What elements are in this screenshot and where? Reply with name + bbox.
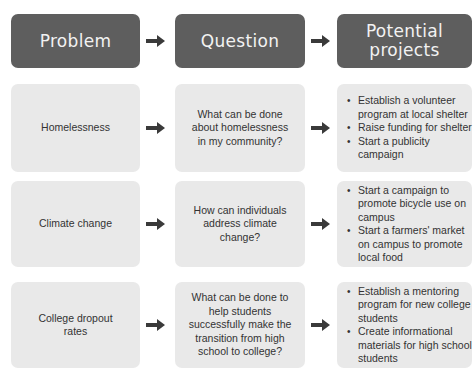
right-arrow-icon <box>146 121 166 135</box>
right-arrow-icon <box>146 217 166 231</box>
project-item: Raise funding for shelter <box>345 121 472 135</box>
project-item: Start a publicity campaign <box>345 135 472 162</box>
project-item: Establish a volunteer program at local s… <box>345 94 472 121</box>
question-text: How can individuals address climate chan… <box>189 204 291 245</box>
right-arrow-icon <box>311 34 331 48</box>
right-arrow-icon <box>146 34 166 48</box>
header-problem-label: Problem <box>40 32 112 51</box>
project-item: Start a campaign to promote bicycle use … <box>345 184 472 225</box>
problem-text: College dropout rates <box>31 312 120 339</box>
projects-list: Establish a volunteer program at local s… <box>345 94 472 162</box>
projects-cell: Establish a volunteer program at local s… <box>337 84 472 172</box>
right-arrow-icon <box>311 318 331 332</box>
question-cell: What can be done to help students succes… <box>175 282 305 368</box>
question-cell: How can individuals address climate chan… <box>175 181 305 267</box>
project-item: Establish a mentoring program for new co… <box>345 285 472 326</box>
header-potential-projects: Potential projects <box>337 14 472 68</box>
projects-cell: Establish a mentoring program for new co… <box>337 282 472 368</box>
question-cell: What can be done about homelessness in m… <box>175 84 305 172</box>
problem-cell: Climate change <box>11 181 140 267</box>
question-text: What can be done to help students succes… <box>183 291 297 359</box>
project-item: Create informational materials for high … <box>345 325 472 366</box>
header-projects-line1: Potential <box>366 22 443 41</box>
header-question-label: Question <box>201 32 279 51</box>
problem-text: Climate change <box>39 217 112 231</box>
header-projects-line2: projects <box>369 41 439 60</box>
problem-text: Homelessness <box>41 121 110 135</box>
projects-list: Start a campaign to promote bicycle use … <box>345 184 472 265</box>
header-problem: Problem <box>11 14 140 68</box>
right-arrow-icon <box>311 217 331 231</box>
problem-cell: Homelessness <box>11 84 140 172</box>
projects-list: Establish a mentoring program for new co… <box>345 285 472 366</box>
project-item: Start a farmers' market on campus to pro… <box>345 224 472 265</box>
question-text: What can be done about homelessness in m… <box>189 108 291 149</box>
projects-cell: Start a campaign to promote bicycle use … <box>337 181 472 267</box>
right-arrow-icon <box>146 318 166 332</box>
header-question: Question <box>175 14 305 68</box>
right-arrow-icon <box>311 121 331 135</box>
problem-cell: College dropout rates <box>11 282 140 368</box>
